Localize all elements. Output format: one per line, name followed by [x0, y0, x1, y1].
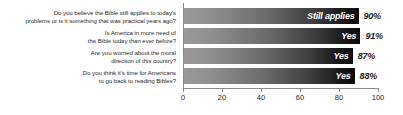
- x-tick: [339, 89, 340, 92]
- category-label-3-line1: Do you think it's time for Americans: [83, 69, 176, 76]
- bar-label-2: Yes: [334, 51, 349, 61]
- x-tick-label: 60: [296, 93, 304, 102]
- category-label-3-line2: to go back to reading Bibles?: [99, 77, 176, 84]
- category-label-2-line1: Are you worried about the moral: [91, 49, 176, 56]
- x-tick-label: 80: [335, 93, 343, 102]
- x-tick: [378, 89, 379, 92]
- category-label-1: Is America in more need of the Bible tod…: [0, 29, 176, 44]
- category-label-2: Are you worried about the moral directio…: [0, 49, 176, 64]
- x-tick: [222, 89, 223, 92]
- bar-chart: Do you believe the Bible still applies t…: [0, 0, 403, 115]
- category-labels: Do you believe the Bible still applies t…: [0, 8, 179, 88]
- x-tick-label: 100: [372, 93, 385, 102]
- x-axis-line: [183, 88, 379, 89]
- category-label-1-line1: Is America in more need of: [105, 29, 176, 36]
- bar-label-1: Yes: [341, 31, 356, 41]
- bar-2: Yes: [183, 48, 353, 64]
- bar-3: Yes: [183, 68, 355, 84]
- bar-row: Yes 88%: [183, 68, 378, 84]
- category-label-0-line2: problems or is it something that was pra…: [25, 17, 176, 24]
- x-tick: [261, 89, 262, 92]
- x-tick-label: 20: [218, 93, 226, 102]
- category-label-2-line2: direction of this country?: [111, 57, 176, 64]
- bar-0: Still applies: [183, 8, 359, 24]
- bar-value-1: 91%: [365, 31, 382, 41]
- bar-row: Still applies 90%: [183, 8, 378, 24]
- x-tick-label: 40: [257, 93, 265, 102]
- bar-row: Yes 91%: [183, 28, 378, 44]
- x-tick-label: 0: [181, 93, 185, 102]
- category-label-0: Do you believe the Bible still applies t…: [0, 9, 176, 24]
- category-label-0-line1: Do you believe the Bible still applies t…: [54, 9, 176, 16]
- x-tick: [300, 89, 301, 92]
- bar-label-0: Still applies: [307, 11, 354, 21]
- category-label-3: Do you think it's time for Americans to …: [0, 69, 176, 84]
- x-tick: [183, 89, 184, 92]
- bar-value-0: 90%: [364, 11, 381, 21]
- y-axis-line: [183, 3, 184, 88]
- category-label-1-line2: the Bible today than ever before?: [88, 37, 176, 44]
- bar-1: Yes: [183, 28, 360, 44]
- bar-value-2: 87%: [358, 51, 375, 61]
- bar-value-3: 88%: [360, 71, 377, 81]
- plot-area: Still applies 90% Yes 91% Yes 87% Yes 88…: [183, 8, 378, 88]
- bar-label-3: Yes: [336, 71, 351, 81]
- bar-row: Yes 87%: [183, 48, 378, 64]
